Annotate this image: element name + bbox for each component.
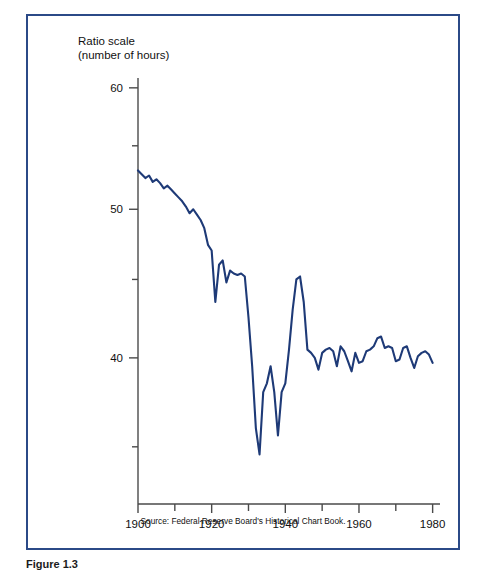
y-tick-label: 50 [110, 203, 123, 215]
figure-frame: Ratio scale(number of hours) 605040 1900… [26, 14, 460, 550]
y-tick-label: 60 [110, 82, 123, 94]
series-line [138, 170, 433, 454]
y-axis: 605040 [110, 78, 138, 504]
source-note: Source: Federal Reserve Board's Historic… [28, 516, 458, 526]
data-series [138, 170, 433, 454]
figure-caption: Figure 1.3 [26, 558, 466, 576]
line-chart: 605040 19001920194019601980 [28, 16, 462, 552]
y-tick-label: 40 [110, 352, 123, 364]
